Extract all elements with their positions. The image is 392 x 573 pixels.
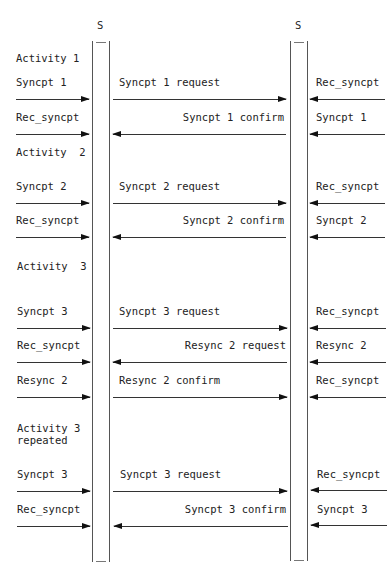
right-event-label: Rec_syncpt	[316, 374, 379, 387]
left-arrow-right	[16, 134, 89, 135]
right-event-label: Rec_syncpt	[317, 468, 380, 481]
message-arrow-left	[113, 362, 287, 363]
left-arrow-right	[16, 237, 89, 238]
right-event-label: Syncpt 2	[316, 214, 367, 227]
message-arrow-left	[114, 526, 288, 527]
right-arrow-left	[310, 203, 385, 204]
left-arrow-right	[16, 203, 89, 204]
message-arrow-right	[113, 328, 287, 329]
right-arrow-left	[310, 99, 385, 100]
left-event-label: Rec_syncpt	[17, 339, 80, 352]
activity-label: Activity 3	[17, 260, 87, 273]
message-label: Syncpt 2 request	[119, 180, 220, 193]
message-label: Syncpt 1 confirm	[120, 111, 284, 124]
message-arrow-right	[113, 397, 287, 398]
left-arrow-right	[16, 99, 89, 100]
message-label: Syncpt 2 confirm	[120, 214, 284, 227]
left-lifeline	[92, 41, 110, 562]
message-arrow-left	[113, 134, 286, 135]
message-label: Resync 2 confirm	[119, 374, 220, 387]
message-arrow-left	[113, 237, 286, 238]
right-arrow-left	[311, 525, 387, 526]
left-event-label: Syncpt 2	[16, 180, 67, 193]
right-event-label: Rec_syncpt	[316, 305, 379, 318]
right-event-label: Rec_syncpt	[316, 76, 379, 89]
message-label: Syncpt 3 confirm	[120, 503, 286, 516]
left-entity-label: S	[97, 19, 103, 32]
left-event-label: Syncpt 3	[17, 305, 68, 318]
left-arrow-right	[17, 397, 90, 398]
left-event-label: Rec_syncpt	[16, 214, 79, 227]
right-lifeline-bottom-cap	[294, 560, 304, 561]
activity-label: repeated	[17, 434, 68, 447]
message-arrow-right	[113, 203, 286, 204]
left-event-label: Syncpt 3	[17, 468, 68, 481]
left-lifeline-bottom-cap	[96, 561, 106, 562]
left-event-label: Rec_syncpt	[17, 503, 80, 516]
right-event-label: Syncpt 1	[316, 111, 367, 124]
right-arrow-left	[310, 362, 386, 363]
left-event-label: Resync 2	[17, 374, 68, 387]
message-arrow-right	[113, 99, 286, 100]
left-event-label: Rec_syncpt	[16, 111, 79, 124]
message-arrow-right	[113, 491, 287, 492]
right-lifeline-top-cap	[294, 42, 304, 43]
left-event-label: Syncpt 1	[16, 76, 67, 89]
right-event-label: Syncpt 3	[317, 503, 368, 516]
left-arrow-right	[17, 526, 90, 527]
left-lifeline-top-cap	[96, 42, 106, 43]
right-arrow-left	[310, 397, 386, 398]
activity-label: Activity 2	[16, 146, 86, 159]
left-arrow-right	[17, 328, 90, 329]
right-arrow-left	[310, 328, 386, 329]
right-arrow-left	[310, 134, 385, 135]
left-arrow-right	[17, 362, 90, 363]
message-label: Resync 2 request	[120, 339, 286, 352]
message-label: Syncpt 3 request	[120, 468, 221, 481]
right-arrow-left	[310, 237, 385, 238]
activity-label: Activity 1	[16, 52, 79, 65]
right-event-label: Rec_syncpt	[316, 180, 379, 193]
right-entity-label: S	[295, 19, 301, 32]
right-arrow-left	[311, 490, 387, 491]
right-event-label: Resync 2	[316, 339, 367, 352]
message-label: Syncpt 3 request	[119, 305, 220, 318]
left-arrow-right	[17, 491, 90, 492]
right-lifeline	[290, 41, 308, 561]
message-label: Syncpt 1 request	[119, 76, 220, 89]
